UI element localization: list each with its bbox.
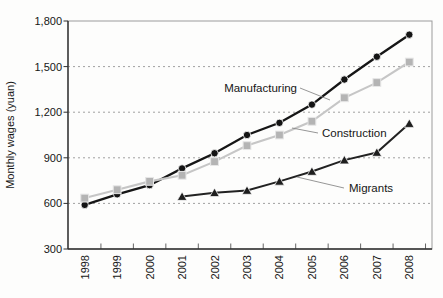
x-tick-label: 1999: [111, 255, 123, 279]
marker-construction: [81, 194, 89, 202]
y-tick-label: 1,500: [34, 61, 62, 73]
marker-manufacturing: [308, 101, 315, 108]
x-tick-label: 2007: [371, 255, 383, 279]
x-tick-label: 2001: [176, 255, 188, 279]
marker-construction: [211, 158, 219, 166]
wage-line-chart-figure: 3006009001,2001,5001,8001998199920002001…: [0, 0, 443, 298]
annotation-leader-construction: [292, 128, 318, 133]
marker-manufacturing: [341, 76, 348, 83]
marker-construction: [405, 58, 413, 66]
y-tick-label: 900: [44, 152, 62, 164]
y-axis-title: Monthly wages (yuan): [4, 81, 16, 189]
x-tick-label: 2003: [241, 255, 253, 279]
x-tick-label: 2004: [273, 255, 285, 279]
series-label-migrants: Migrants: [349, 182, 393, 194]
marker-construction: [276, 131, 284, 139]
y-tick-label: 600: [44, 197, 62, 209]
series-label-construction: Construction: [322, 127, 387, 139]
x-tick-label: 1998: [79, 255, 91, 279]
marker-construction: [146, 177, 154, 185]
x-tick-label: 2005: [306, 255, 318, 279]
x-tick-label: 2000: [144, 255, 156, 279]
marker-manufacturing: [243, 131, 250, 138]
x-tick-label: 2006: [338, 255, 350, 279]
marker-construction: [243, 142, 251, 150]
marker-construction: [178, 171, 186, 179]
series-label-manufacturing: Manufacturing: [224, 82, 297, 94]
y-tick-label: 300: [44, 243, 62, 255]
annotation-leader-migrants: [297, 177, 344, 188]
marker-construction: [373, 79, 381, 87]
marker-manufacturing: [211, 150, 218, 157]
chart-canvas: 3006009001,2001,5001,8001998199920002001…: [0, 0, 443, 298]
x-tick-label: 2008: [403, 255, 415, 279]
series-line-manufacturing: [85, 35, 410, 205]
x-tick-label: 2002: [209, 255, 221, 279]
marker-manufacturing: [373, 53, 380, 60]
marker-construction: [308, 117, 316, 125]
y-tick-label: 1,800: [34, 15, 62, 27]
marker-migrants: [405, 119, 415, 127]
marker-construction: [340, 94, 348, 102]
marker-manufacturing: [276, 119, 283, 126]
y-tick-label: 1,200: [34, 106, 62, 118]
marker-manufacturing: [406, 31, 413, 38]
marker-construction: [113, 186, 121, 194]
